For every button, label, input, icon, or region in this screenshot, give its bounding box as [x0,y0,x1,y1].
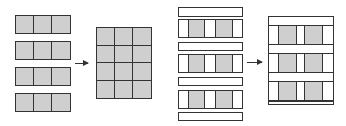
right-arrow-icon [75,63,88,64]
strip-cell [34,42,52,59]
plain-bar [178,7,243,17]
strip-cell [179,55,189,72]
strip-cell [34,68,52,85]
plain-bar [178,42,243,51]
panel-cell [305,54,323,72]
bordered-strip [178,54,243,73]
panel-cell [305,26,323,44]
right-arrow-icon [247,62,262,63]
strip-cell [16,16,34,33]
panel-strip [269,26,333,45]
bordered-strip [178,90,243,109]
panel-bar [269,45,333,54]
strip-cell [34,94,52,111]
panel-cell [269,54,279,72]
strip-cell [34,16,52,33]
panel-cell [279,54,296,72]
grid-cell [97,81,115,99]
strip-cell [216,55,233,72]
strip-3 [15,67,71,86]
bordered-strip [178,19,243,38]
panel-strip [269,82,333,101]
panel-cell [297,82,306,100]
grid-cell [133,28,151,46]
panel-bar [269,17,333,26]
panel-cell [279,82,296,100]
plain-bar [178,77,243,86]
strip-cell [216,91,233,108]
panel-cell [297,26,306,44]
grid-cell [115,63,133,81]
grid-cell [133,46,151,64]
strip-cell [179,91,189,108]
panel-cell [269,82,279,100]
panel-cell [279,26,296,44]
strip-cell [179,20,189,37]
strip-cell [52,16,70,33]
panel-cell [305,82,323,100]
strip-cell [205,91,215,108]
grid-cell [115,28,133,46]
strip-cell [16,68,34,85]
grid-cell [133,81,151,99]
strip-2 [15,41,71,60]
strip-cell [189,91,205,108]
panel-cell [323,54,333,72]
right-output-panel [268,16,334,105]
strip-cell [52,68,70,85]
strip-cell [52,42,70,59]
strip-cell [189,55,205,72]
left-output-grid [96,27,152,99]
grid-cell [115,81,133,99]
strip-cell [233,91,242,108]
panel-strip [269,54,333,73]
strip-cell [205,55,215,72]
panel-cell [269,26,279,44]
panel-bar [269,73,333,82]
strip-cell [205,20,215,37]
strip-cell [233,20,242,37]
grid-cell [97,63,115,81]
strip-cell [189,20,205,37]
grid-cell [133,63,151,81]
strip-4 [15,93,71,112]
strip-cell [52,94,70,111]
strip-cell [216,20,233,37]
strip-cell [233,55,242,72]
strip-cell [16,42,34,59]
panel-cell [323,26,333,44]
strip-1 [15,15,71,34]
panel-cell [323,82,333,100]
grid-cell [115,46,133,64]
panel-cell [297,54,306,72]
strip-cell [16,94,34,111]
plain-bar [178,112,243,121]
grid-cell [97,46,115,64]
panel-bar [269,101,333,104]
grid-cell [97,28,115,46]
